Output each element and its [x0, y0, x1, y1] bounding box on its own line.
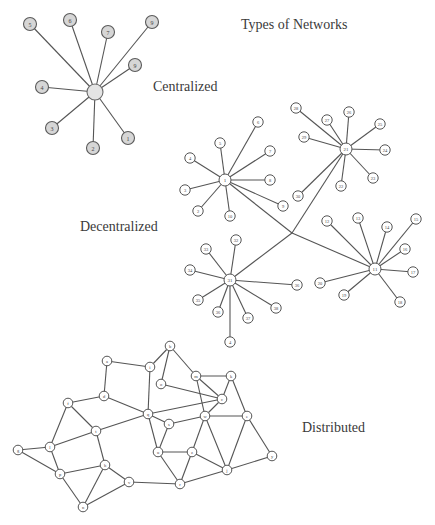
distributed-node: b	[165, 341, 175, 351]
distributed-edge	[247, 416, 272, 456]
distributed-edge	[158, 452, 180, 484]
distributed-node: j	[222, 465, 232, 475]
centralized-hub-node	[87, 84, 103, 100]
node-label: 36	[216, 310, 221, 315]
decentralized-node: 9	[278, 201, 288, 211]
decentralized-node: 37	[243, 313, 253, 323]
distributed-node: a	[102, 356, 112, 366]
node-label: 2	[197, 209, 199, 214]
distributed-node: d	[99, 391, 109, 401]
centralized-node: 3	[46, 122, 59, 135]
node-label: 15	[414, 217, 419, 222]
distributed-edge	[68, 403, 96, 431]
decentralized-node: 26	[344, 107, 354, 117]
node-label: 34	[188, 268, 193, 273]
node-label: 25	[378, 122, 383, 127]
node-label: e	[246, 414, 248, 419]
distributed-node: z	[187, 447, 197, 457]
decentralized-edge	[225, 180, 283, 206]
decentralized-node: 2	[193, 206, 203, 216]
distributed-node: f	[63, 398, 73, 408]
node-label: s	[168, 422, 170, 427]
decentralized-node: 27	[322, 115, 332, 125]
decentralized-edge	[375, 219, 416, 269]
centralized-node: 9	[146, 16, 159, 29]
distributed-edge	[231, 376, 247, 416]
decentralized-edge	[225, 151, 270, 180]
distributed-edge	[148, 399, 222, 414]
decentralized-node: 3	[180, 185, 190, 195]
centralized-edge	[95, 32, 108, 92]
node-label: 4	[41, 85, 44, 91]
distributed-edge	[169, 416, 205, 424]
centralized-node: 2	[87, 142, 100, 155]
node-label: c	[221, 397, 223, 402]
node-label: 12	[325, 219, 330, 224]
decentralized-node: 29	[299, 132, 309, 142]
distributed-node: s	[164, 419, 174, 429]
distributed-node: p	[55, 469, 65, 479]
node-label: 19	[342, 293, 347, 298]
node-label: 1	[127, 136, 130, 142]
decentralized-hub-node: 31	[224, 274, 236, 286]
distributed-edge	[96, 414, 148, 431]
distributed-edge	[68, 396, 104, 403]
node-label: m	[194, 374, 198, 379]
decentralized-node: 20	[315, 278, 325, 288]
node-label: 38	[274, 306, 279, 311]
centralized-edge	[70, 20, 95, 92]
distributed-node: e	[242, 411, 252, 421]
distributed-edge	[104, 396, 148, 414]
node-label: 14	[385, 225, 390, 230]
distributed-node: y	[267, 451, 277, 461]
distributed-edge	[227, 456, 272, 470]
decentralized-edge	[296, 108, 346, 149]
node-label: 20	[318, 281, 323, 286]
distributed-node: k	[226, 371, 236, 381]
centralized-node: 7	[102, 26, 115, 39]
distributed-edge	[148, 414, 158, 452]
distributed-edge	[192, 452, 227, 470]
distributed-edge	[60, 465, 105, 474]
distributed-label: Distributed	[302, 420, 365, 436]
decentralized-hub-node: 21	[340, 143, 352, 155]
node-label: 28	[294, 106, 299, 111]
decentralized-hub-node: 11	[369, 263, 381, 275]
decentralized-node: 14	[382, 222, 392, 232]
node-label: 33	[204, 247, 209, 252]
decentralized-node: 7	[265, 146, 275, 156]
centralized-node: 5	[24, 18, 37, 31]
decentralized-node: 5	[215, 138, 225, 148]
distributed-edge	[18, 450, 60, 474]
decentralized-hub-node: 1	[219, 174, 231, 186]
distributed-edge	[192, 416, 205, 452]
decentralized-node: 6	[253, 117, 263, 127]
distributed-node: c	[217, 394, 227, 404]
node-label: 23	[371, 176, 376, 181]
distributed-edge	[129, 482, 180, 484]
node-label: 32	[234, 238, 239, 243]
node-label: 2	[92, 146, 95, 152]
decentralized-edge	[327, 221, 375, 269]
node-label: 36	[295, 283, 300, 288]
distributed-node: w	[200, 411, 210, 421]
node-label: a	[106, 359, 108, 364]
node-label: 10	[228, 214, 233, 219]
decentralized-node: 13	[353, 213, 363, 223]
distributed-node: v	[124, 477, 134, 487]
decentralized-node: 36	[292, 280, 302, 290]
node-label: 22	[339, 184, 344, 189]
decentralized-node: 28	[291, 103, 301, 113]
node-label: 16	[403, 247, 408, 252]
node-label: 35	[196, 298, 201, 303]
node-label: 24	[383, 148, 388, 153]
distributed-node: g	[13, 445, 23, 455]
decentralized-node: 34	[185, 265, 195, 275]
distributed-edge	[205, 416, 227, 470]
centralized-node: 1	[122, 132, 135, 145]
node-circle	[87, 84, 103, 100]
decentralized-node: 25	[375, 119, 385, 129]
node-label: 18	[398, 300, 403, 305]
node-label: 7	[107, 30, 110, 36]
decentralized-node: 4	[225, 337, 235, 347]
